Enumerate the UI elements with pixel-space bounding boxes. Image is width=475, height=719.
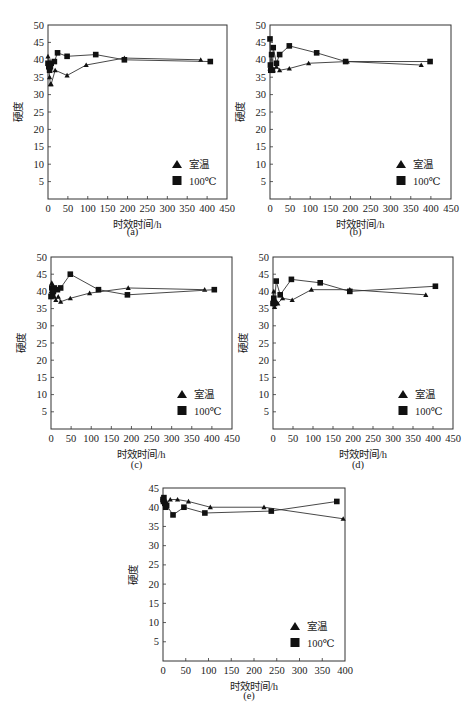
y-tick-label: 10 <box>34 159 45 170</box>
square-marker <box>267 36 273 42</box>
y-tick-label: 20 <box>149 579 160 590</box>
square-marker <box>58 285 64 291</box>
square-marker <box>125 292 131 298</box>
chart-panel-e: 5101520253035404505010015020025030035040… <box>127 483 353 703</box>
legend: 室温100℃ <box>396 158 441 187</box>
hardness-vs-aging-time-figure: 5101520253035404550050100150200250300350… <box>0 0 475 719</box>
series-100c <box>270 277 438 307</box>
legend-square-icon <box>173 176 182 185</box>
y-tick-label: 50 <box>34 20 45 31</box>
y-tick-label: 5 <box>264 406 269 417</box>
x-tick-label: 450 <box>219 203 235 214</box>
legend: 室温100℃ <box>290 620 335 649</box>
legend-triangle-icon <box>177 390 187 398</box>
y-tick-label: 30 <box>259 320 270 331</box>
square-marker <box>212 287 218 293</box>
y-tick-label: 45 <box>259 269 270 280</box>
x-tick-label: 350 <box>314 665 330 676</box>
triangle-marker <box>49 280 54 285</box>
y-tick-label: 20 <box>37 355 48 366</box>
series-100c <box>45 50 213 73</box>
legend-square-icon <box>397 176 406 185</box>
x-tick-label: 0 <box>270 433 275 444</box>
x-tick-label: 100 <box>302 203 318 214</box>
legend-triangle-icon <box>396 160 406 168</box>
x-tick-label: 350 <box>403 203 419 214</box>
y-tick-label: 25 <box>259 338 270 349</box>
y-tick-label: 40 <box>34 54 45 65</box>
triangle-marker <box>53 68 58 73</box>
y-tick-label: 50 <box>256 20 267 31</box>
legend-label-100c: 100℃ <box>413 176 441 187</box>
square-marker <box>271 295 277 301</box>
panel-label: (e) <box>243 690 255 702</box>
x-tick-label: 50 <box>181 665 192 676</box>
y-tick-label: 5 <box>261 176 266 187</box>
square-marker <box>269 52 275 58</box>
y-axis-title: 硬度 <box>234 101 246 122</box>
x-tick-label: 450 <box>445 433 461 444</box>
triangle-marker <box>45 54 50 59</box>
square-marker <box>161 495 167 501</box>
legend-square-icon <box>399 406 408 415</box>
legend: 室温100℃ <box>172 158 217 187</box>
square-marker <box>202 510 208 516</box>
panel-label: (d) <box>352 459 365 471</box>
square-marker <box>289 277 295 283</box>
y-tick-label: 25 <box>149 559 160 570</box>
x-tick-label: 300 <box>383 203 399 214</box>
square-marker <box>277 52 283 58</box>
x-tick-label: 50 <box>288 433 299 444</box>
x-tick-label: 400 <box>337 665 353 676</box>
x-tick-label: 400 <box>425 433 441 444</box>
square-marker <box>96 287 102 293</box>
x-tick-label: 400 <box>199 203 215 214</box>
legend-label-room-temp: 室温 <box>189 158 210 170</box>
x-tick-label: 450 <box>224 433 240 444</box>
square-marker <box>122 57 128 63</box>
x-tick-label: 300 <box>385 433 401 444</box>
chart-panel-b: 5101520253035404550050100150200250300350… <box>234 20 459 239</box>
square-marker <box>64 54 70 60</box>
y-tick-label: 40 <box>149 502 160 513</box>
square-marker <box>207 59 213 65</box>
legend-label-room-temp: 室温 <box>413 158 434 170</box>
chart-panel-d: 5101520253035404550050100150200250300350… <box>237 252 461 472</box>
y-tick-label: 40 <box>37 286 48 297</box>
panel-label: (b) <box>349 226 362 238</box>
y-tick-label: 45 <box>149 483 160 494</box>
x-tick-label: 50 <box>63 203 74 214</box>
y-tick-label: 40 <box>259 286 270 297</box>
y-tick-label: 35 <box>34 72 45 83</box>
square-marker <box>268 62 274 68</box>
y-tick-label: 35 <box>256 72 267 83</box>
y-tick-label: 15 <box>259 372 270 383</box>
legend-label-100c: 100℃ <box>189 176 217 187</box>
x-tick-label: 400 <box>423 203 439 214</box>
y-tick-label: 35 <box>259 303 270 314</box>
y-tick-label: 50 <box>37 252 48 263</box>
square-marker <box>334 499 340 505</box>
y-tick-label: 10 <box>259 389 270 400</box>
plot-frame <box>273 257 453 429</box>
square-marker <box>164 503 170 509</box>
x-tick-label: 150 <box>223 665 239 676</box>
square-marker <box>272 301 278 307</box>
legend-label-100c: 100℃ <box>194 406 222 417</box>
square-marker <box>270 45 276 51</box>
y-tick-label: 5 <box>42 406 47 417</box>
x-tick-label: 150 <box>103 433 119 444</box>
y-tick-label: 45 <box>256 37 267 48</box>
legend: 室温100℃ <box>398 388 443 417</box>
x-tick-label: 100 <box>305 433 321 444</box>
x-tick-label: 200 <box>120 203 136 214</box>
x-tick-label: 300 <box>292 665 308 676</box>
y-tick-label: 30 <box>256 89 267 100</box>
plot-frame <box>51 257 232 429</box>
x-tick-label: 150 <box>325 433 341 444</box>
y-tick-label: 25 <box>37 338 48 349</box>
x-tick-label: 400 <box>204 433 220 444</box>
y-tick-label: 15 <box>37 372 48 383</box>
legend-triangle-icon <box>398 390 408 398</box>
x-tick-label: 150 <box>322 203 338 214</box>
